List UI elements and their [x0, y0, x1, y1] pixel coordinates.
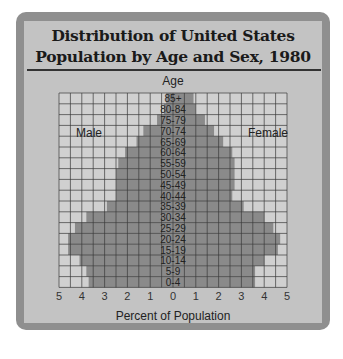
- age-group-label: 35-39: [160, 201, 186, 212]
- x-tick-label: 2: [216, 290, 222, 302]
- x-tick-label: 5: [284, 290, 290, 302]
- x-tick-label: 5: [56, 290, 62, 302]
- x-tick-label: 4: [79, 290, 85, 302]
- age-group-label: 70-74: [160, 126, 186, 137]
- age-group-label: 55-59: [160, 158, 186, 169]
- age-group-label: 50-54: [160, 169, 186, 180]
- x-axis-label: Percent of Population: [24, 309, 322, 323]
- bar-male: [75, 223, 173, 234]
- x-tick-label: 4: [261, 290, 267, 302]
- bar-male: [68, 244, 173, 255]
- population-pyramid-chart: 85+80-8475-7970-7465-6960-6455-5950-5445…: [0, 0, 343, 359]
- age-group-label: 80-84: [160, 104, 186, 115]
- bar-female: [173, 277, 255, 288]
- bar-female: [173, 244, 278, 255]
- x-tick-label: 3: [238, 290, 244, 302]
- x-tick-label: 0: [170, 290, 176, 302]
- age-group-label: 60-64: [160, 147, 186, 158]
- age-group-label: 65-69: [160, 137, 186, 148]
- x-tick-label: 2: [124, 290, 130, 302]
- legend-male: Male: [76, 126, 102, 140]
- age-group-label: 10-14: [160, 255, 186, 266]
- age-group-label: 0-4: [166, 277, 181, 288]
- age-group-label: 85+: [165, 93, 182, 104]
- age-group-label: 5-9: [166, 266, 181, 277]
- legend-female: Female: [248, 126, 288, 140]
- age-group-label: 30-34: [160, 212, 186, 223]
- x-tick-label: 1: [193, 290, 199, 302]
- bar-female: [173, 223, 273, 234]
- x-tick-label: 3: [102, 290, 108, 302]
- age-group-label: 20-24: [160, 234, 186, 245]
- bar-male: [89, 277, 173, 288]
- age-group-label: 45-49: [160, 180, 186, 191]
- bar-male: [86, 266, 173, 277]
- age-group-label: 75-79: [160, 115, 186, 126]
- bar-male: [68, 233, 173, 244]
- age-group-label: 40-44: [160, 191, 186, 202]
- age-group-label: 25-29: [160, 223, 186, 234]
- age-group-label: 15-19: [160, 245, 186, 256]
- x-tick-label: 1: [147, 290, 153, 302]
- bar-female: [173, 266, 255, 277]
